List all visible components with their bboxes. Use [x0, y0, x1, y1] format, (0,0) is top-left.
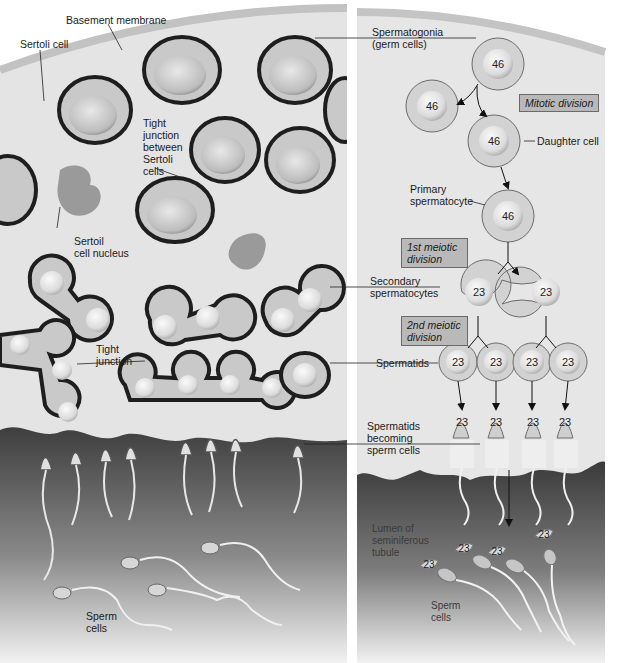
- spermatogonia-label: Spermatogonia (germ cells): [372, 26, 443, 50]
- daughter-cell-label: Daughter cell: [537, 135, 599, 147]
- count-spermatid-2: 23: [490, 356, 502, 368]
- count-sperm-3: 23: [491, 546, 503, 557]
- count-maturing-2: 23: [490, 416, 502, 428]
- spermatids-becoming-sperm-label: Spermatids becoming sperm cells: [367, 420, 420, 456]
- panel-divider: [347, 0, 357, 663]
- count-secondary-2: 23: [540, 286, 552, 298]
- spermatids-label: Spermatids: [376, 357, 429, 369]
- count-maturing-3: 23: [527, 416, 539, 428]
- count-mitotic-left: 46: [426, 100, 438, 112]
- count-spermatid-3: 23: [526, 356, 538, 368]
- count-spermatid-4: 23: [562, 356, 574, 368]
- count-maturing-1: 23: [456, 416, 468, 428]
- count-spermatogonium: 46: [492, 58, 504, 70]
- basement-membrane-label: Basement membrane: [66, 14, 166, 26]
- left-panel: [0, 0, 365, 663]
- count-sperm-1: 23: [423, 559, 435, 570]
- count-sperm-2: 23: [458, 543, 470, 554]
- count-sperm-4: 23: [538, 529, 550, 540]
- second-meiotic-division-box: 2nd meiotic division: [401, 316, 468, 346]
- tight-junction-between-label: Tight junction between Sertoli cells: [143, 117, 183, 177]
- count-maturing-4: 23: [559, 416, 571, 428]
- right-sperm-cells-label: Sperm cells: [431, 600, 460, 624]
- primary-spermatocyte-label: Primary spermatocyte: [410, 183, 473, 207]
- sertoli-cell-label: Sertoli cell: [20, 38, 68, 50]
- count-secondary-1: 23: [473, 286, 485, 298]
- count-spermatid-1: 23: [452, 356, 464, 368]
- tight-junction-label: Tight junction: [96, 343, 132, 367]
- left-sperm-cells-label: Sperm cells: [86, 610, 117, 634]
- spermatogenesis-diagram: 46 46 46 46 23 23 23 23 23 23 23 23 23 2…: [0, 0, 618, 663]
- secondary-spermatocytes-label: Secondary spermatocytes: [370, 275, 438, 299]
- count-primary: 46: [502, 210, 514, 222]
- count-daughter: 46: [488, 135, 500, 147]
- lumen-label: Lumen of seminiferous tubule: [372, 523, 429, 559]
- first-meiotic-division-box: 1st meiotic division: [401, 238, 468, 268]
- mitotic-division-box: Mitotic division: [519, 94, 599, 112]
- sertoli-nucleus-label: Sertoil cell nucleus: [74, 235, 129, 259]
